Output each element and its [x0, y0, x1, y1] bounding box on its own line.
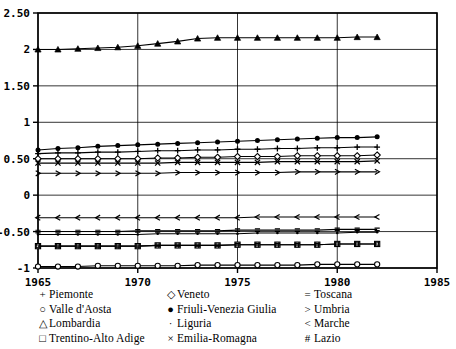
legend-label: Emilia-Romagna [177, 331, 257, 346]
legend-item-valle-d-aosta[interactable]: ○Valle d'Aosta [36, 302, 166, 317]
legend-item-friuli-venezia-giulia[interactable]: ●Friuli-Venezia Giulia [164, 302, 324, 317]
data-point-marker [176, 232, 179, 235]
data-point-marker [115, 263, 120, 268]
data-point-marker [37, 233, 40, 236]
legend-marker-icon: # [301, 331, 314, 346]
data-point-marker [95, 263, 100, 268]
data-point-marker [215, 139, 220, 144]
data-point-marker [136, 233, 139, 236]
data-point-marker [376, 231, 379, 234]
legend-marker-icon: ◇ [164, 287, 177, 302]
legend-item-lazio[interactable]: #Lazio [301, 331, 431, 346]
legend-marker-icon: ● [164, 302, 177, 317]
data-point-marker [216, 232, 219, 235]
data-point-marker [35, 264, 40, 269]
y-tick-label: 0 [23, 189, 30, 202]
data-point-marker [195, 262, 200, 267]
data-point-marker [175, 141, 180, 146]
legend-column-2: ◇Veneto●Friuli-Venezia Giulia·Liguria×Em… [164, 287, 324, 345]
y-tick-label: -1 [17, 262, 31, 275]
data-point-marker [235, 139, 240, 144]
legend-marker-icon: × [164, 331, 177, 346]
data-point-marker [156, 232, 159, 235]
data-point-marker [315, 262, 320, 267]
legend-label: Lazio [314, 331, 341, 346]
chart-container: -1-0.5000.5011.5022.50 19651970197519801… [0, 0, 456, 349]
legend-label: Friuli-Venezia Giulia [177, 302, 277, 317]
legend-item-toscana[interactable]: =Toscana [301, 287, 431, 302]
data-point-marker [335, 135, 340, 140]
data-point-marker [256, 232, 259, 235]
data-point-marker [336, 232, 339, 235]
data-point-marker [195, 140, 200, 145]
data-point-marker [215, 262, 220, 267]
legend-label: Veneto [177, 287, 210, 302]
data-point-marker [296, 232, 299, 235]
legend-marker-icon: = [301, 287, 314, 302]
data-point-marker [355, 135, 360, 140]
y-tick-label: -0.50 [0, 226, 30, 239]
data-point-marker [275, 262, 280, 267]
legend-item-trentino-alto-adige[interactable]: □Trentino-Alto Adige [36, 331, 166, 346]
legend-label: Lombardia [49, 316, 100, 331]
legend-item-veneto[interactable]: ◇Veneto [164, 287, 324, 302]
data-point-marker [236, 232, 239, 235]
data-point-marker [355, 262, 360, 267]
legend-item-umbria[interactable]: >Umbria [301, 302, 431, 317]
data-point-marker [316, 232, 319, 235]
data-point-marker [315, 136, 320, 141]
legend-marker-icon: < [301, 316, 314, 331]
legend-marker-icon: ○ [36, 302, 49, 317]
data-point-marker [295, 262, 300, 267]
data-point-marker [356, 231, 359, 234]
legend-label: Valle d'Aosta [49, 302, 111, 317]
data-point-marker [295, 137, 300, 142]
data-point-marker [117, 233, 120, 236]
data-point-marker [375, 262, 380, 267]
y-tick-label: 1.50 [4, 80, 31, 93]
data-point-marker [95, 144, 100, 149]
data-point-marker [77, 233, 80, 236]
data-point-marker [55, 146, 60, 151]
data-point-marker [196, 232, 199, 235]
data-point-marker [255, 138, 260, 143]
data-point-marker [115, 143, 120, 148]
data-point-marker [276, 232, 279, 235]
data-point-marker [375, 134, 380, 139]
data-point-marker [135, 263, 140, 268]
y-tick-label: 2 [23, 43, 30, 56]
legend-marker-icon: · [164, 316, 177, 331]
legend-item-piemonte[interactable]: +Piemonte [36, 287, 166, 302]
data-point-marker [175, 263, 180, 268]
data-point-marker [155, 142, 160, 147]
y-tick-label: 1 [23, 116, 30, 129]
legend-column-1: +Piemonte○Valle d'Aosta△Lombardia□Trenti… [36, 287, 166, 345]
data-point-marker [335, 262, 340, 267]
y-tick-label: 0.50 [4, 153, 31, 166]
y-tick-label: 2.50 [4, 7, 31, 20]
legend-column-3: =Toscana>Umbria<Marche#Lazio [301, 287, 431, 345]
data-point-marker [155, 263, 160, 268]
legend-item-lombardia[interactable]: △Lombardia [36, 316, 166, 331]
legend-marker-icon: + [36, 287, 49, 302]
legend-label: Trentino-Alto Adige [49, 331, 145, 346]
legend-item-marche[interactable]: <Marche [301, 316, 431, 331]
legend-label: Toscana [314, 287, 352, 302]
data-point-marker [36, 147, 41, 152]
data-point-marker [97, 233, 100, 236]
data-point-marker [255, 262, 260, 267]
legend-label: Marche [314, 316, 350, 331]
data-point-marker [275, 137, 280, 142]
data-point-marker [235, 262, 240, 267]
legend-item-liguria[interactable]: ·Liguria [164, 316, 324, 331]
data-point-marker [75, 145, 80, 150]
legend-item-emilia-romagna[interactable]: ×Emilia-Romagna [164, 331, 324, 346]
legend-label: Piemonte [49, 287, 93, 302]
legend-label: Liguria [177, 316, 212, 331]
legend-marker-icon: △ [36, 316, 49, 331]
chart-legend: +Piemonte○Valle d'Aosta△Lombardia□Trenti… [36, 287, 436, 347]
legend-label: Umbria [314, 302, 350, 317]
data-point-marker [55, 264, 60, 269]
data-point-marker [135, 142, 140, 147]
data-point-marker [75, 264, 80, 269]
